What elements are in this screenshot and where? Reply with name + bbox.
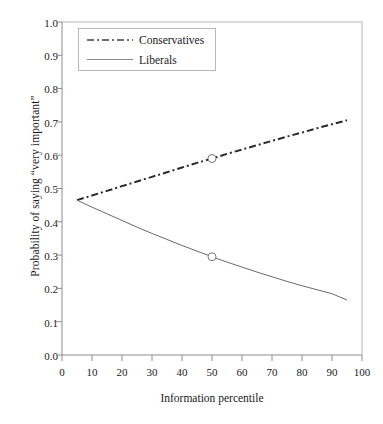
legend-line-sample-dash-dot-icon (87, 39, 133, 41)
chart-legend: Conservatives Liberals (78, 28, 216, 71)
data-series-layer (77, 120, 347, 300)
series-line-liberals (77, 200, 347, 300)
data-point-marker-conservatives (208, 155, 216, 163)
legend-item-conservatives: Conservatives (79, 30, 217, 50)
data-point-marker-liberals (208, 253, 216, 261)
legend-line-sample-solid-icon (87, 59, 133, 60)
y-tick-marks (56, 22, 62, 355)
legend-item-liberals: Liberals (79, 50, 217, 70)
chart-figure: Probability of saying “very important” I… (0, 0, 383, 424)
legend-label: Liberals (139, 52, 177, 68)
legend-label: Conservatives (139, 32, 204, 48)
x-tick-marks (62, 355, 362, 361)
